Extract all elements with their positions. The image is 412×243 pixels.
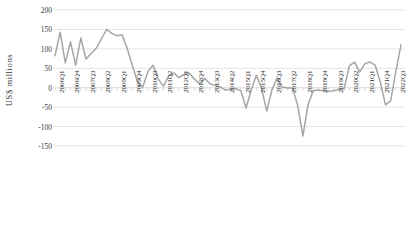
x-axis-tick-label: 2010Q3 xyxy=(151,70,159,93)
x-axis-tick-label: 2022Q3 xyxy=(399,70,407,93)
y-axis-tick-label: -150 xyxy=(18,142,52,151)
x-axis-tick-label: 2008Q2 xyxy=(104,70,112,93)
y-axis-ticks: 200150100500-50-100-150 xyxy=(14,0,52,243)
y-axis-tick-label: -50 xyxy=(18,103,52,112)
x-axis-tick-label: 2007Q3 xyxy=(89,70,97,93)
y-axis-tick-label: 50 xyxy=(18,64,52,73)
x-axis-tick-label: 2013Q3 xyxy=(213,70,221,93)
x-axis-tick-label: 2006Q1 xyxy=(58,70,66,93)
x-axis-tick-label: 2009Q1 xyxy=(120,70,128,93)
x-axis-tick-label: 2018Q1 xyxy=(306,70,314,93)
x-axis-tick-label: 2006Q4 xyxy=(73,70,81,93)
x-axis-tick-label: 2012Q1 xyxy=(182,70,190,93)
x-axis-tick-label: 2017Q2 xyxy=(290,70,298,93)
x-axis-tick-label: 2016Q3 xyxy=(275,70,283,93)
x-axis-tick-label: 2019Q3 xyxy=(337,70,345,93)
x-axis-tick-label: 2012Q4 xyxy=(197,70,205,93)
y-axis-tick-label: 100 xyxy=(18,44,52,53)
y-axis-tick-label: 0 xyxy=(18,83,52,92)
y-axis-tick-label: -100 xyxy=(18,122,52,131)
y-axis-title-text: US$ millions xyxy=(4,54,14,106)
x-axis-tick-label: 2015Q4 xyxy=(259,70,267,93)
chart-container: US$ millions 200150100500-50-100-150 200… xyxy=(0,0,412,243)
chart-svg xyxy=(53,0,405,243)
y-axis-tick-label: 150 xyxy=(18,25,52,34)
x-axis-tick-label: 2011Q2 xyxy=(166,70,174,92)
x-axis-tick-label: 2009Q4 xyxy=(135,70,143,93)
x-axis-tick-label: 2021Q4 xyxy=(383,70,391,93)
x-axis-tick-label: 2021Q1 xyxy=(368,70,376,93)
x-axis-tick-label: 2018Q4 xyxy=(321,70,329,93)
plot-area: 2006Q12006Q42007Q32008Q22009Q12009Q42010… xyxy=(53,0,405,243)
x-axis-tick-label: 2020Q2 xyxy=(352,70,360,93)
x-axis-tick-label: 2014Q2 xyxy=(228,70,236,93)
y-axis-tick-label: 200 xyxy=(18,6,52,15)
x-axis-tick-label: 2015Q1 xyxy=(244,70,252,93)
